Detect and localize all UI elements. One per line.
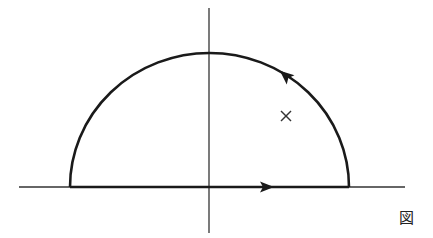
pole-cross-icon [281,111,291,121]
contour-diagram [0,0,433,238]
figure-label: 図 [399,211,414,226]
arrow-arc-icon [276,66,294,84]
